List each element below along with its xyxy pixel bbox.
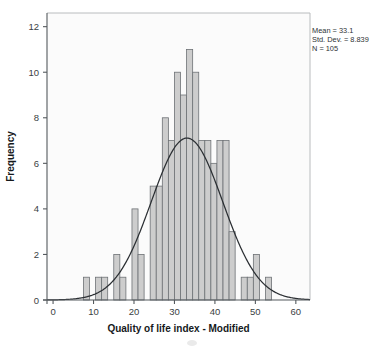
x-tick-label: 20 — [129, 306, 140, 317]
x-tick-label: 40 — [210, 306, 221, 317]
histogram-bar — [138, 254, 144, 300]
y-tick-label: 6 — [34, 158, 39, 169]
histogram-bar — [241, 277, 247, 300]
histogram-figure: 0102030405060 024681012 Quality of life … — [0, 0, 385, 350]
histogram-bar — [199, 141, 205, 300]
stat-mean: Mean = 33.1 — [312, 26, 353, 35]
scan-artifact — [187, 340, 197, 346]
x-tick-label: 50 — [250, 306, 261, 317]
y-tick-label: 10 — [28, 67, 39, 78]
histogram-bar — [132, 209, 138, 300]
y-axis-title: Frequency — [5, 131, 16, 182]
stat-n: N = 105 — [312, 44, 338, 53]
histogram-bar — [174, 72, 180, 300]
histogram-bar — [223, 141, 229, 300]
y-tick-label: 4 — [34, 203, 39, 214]
x-tick-label: 10 — [88, 306, 99, 317]
histogram-bar — [162, 118, 168, 300]
histogram-bar — [156, 186, 162, 300]
y-tick-label: 0 — [34, 295, 39, 306]
histogram-bar — [120, 277, 126, 300]
histogram-bar — [168, 141, 174, 300]
histogram-bar — [193, 72, 199, 300]
histogram-bar — [181, 95, 187, 300]
y-tick-label: 2 — [34, 249, 39, 260]
histogram-bar — [187, 49, 193, 300]
x-tick-label: 60 — [291, 306, 302, 317]
histogram-bar — [247, 277, 253, 300]
stat-stddev: Std. Dev. = 8.839 — [312, 35, 369, 44]
y-tick-label: 8 — [34, 112, 39, 123]
histogram-bar — [229, 232, 235, 300]
x-tick-label: 30 — [169, 306, 180, 317]
y-tick-label: 12 — [28, 21, 39, 32]
x-axis-title: Quality of life index - Modified — [107, 323, 249, 334]
histogram-bar — [217, 141, 223, 300]
x-tick-label: 0 — [50, 306, 55, 317]
histogram-bar — [96, 277, 102, 300]
